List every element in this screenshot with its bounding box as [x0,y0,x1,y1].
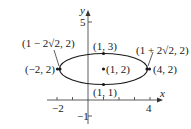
left-focus-label: (1 − 2√2, 2) [22,37,75,50]
x-axis-label: x [159,87,165,99]
x-tick-label-4: 4 [146,102,152,114]
right-vertex-label: (4, 2) [153,63,177,76]
y-axis: y 5 −1 [77,4,92,124]
right-vertex-point [148,67,151,70]
y-axis-label: y [79,4,85,16]
x-tick-label-neg2: −2 [52,102,64,114]
left-vertex-label: (−2, 2) [25,63,55,76]
y-axis-arrow-icon [86,10,91,16]
ellipse-diagram: x −2 4 y 5 −1 (1 − 2√2, 2) (1 + 2√2, 2) … [0,0,191,129]
right-focus-label: (1 + 2√2, 2) [136,44,189,57]
center-point-label: (1, 2) [106,63,130,76]
top-point-label: (1, 3) [93,40,117,53]
left-focus-point [58,67,61,70]
y-tick-label-neg1: −1 [77,110,89,122]
y-tick-label-5: 5 [80,16,86,28]
bottom-point-label: (1, 1) [93,86,117,99]
y-ticks [88,22,92,116]
center-point [102,67,105,70]
points [56,52,151,86]
top-point [102,52,105,55]
